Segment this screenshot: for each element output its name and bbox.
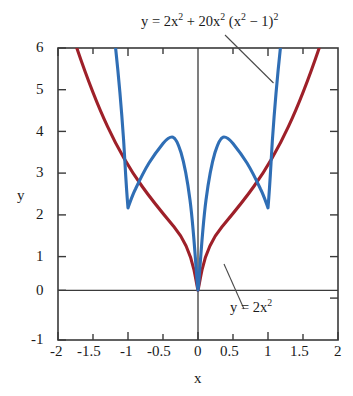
x-tick-label-neg0p5: -0.5 — [147, 344, 171, 359]
y-tick-label-5: 5 — [36, 82, 44, 97]
eq-blue-outer-exp: 2 — [273, 11, 278, 22]
y-tick-label-6: 6 — [36, 40, 44, 55]
eq-blue-inner-exp: 2 — [241, 11, 246, 22]
red-curve-equation-label: y = 2x2 — [230, 300, 272, 316]
chart-figure: 6 5 4 3 2 1 0 -1 -2 -1.5 -1 -0.5 0 0.5 1… — [0, 0, 353, 396]
x-tick-label-2: 2 — [334, 344, 342, 359]
x-tick-label-neg1p5: -1.5 — [77, 344, 101, 359]
x-tick-label-0p5: 0.5 — [220, 344, 239, 359]
x-tick-label-1p5: 1.5 — [290, 344, 309, 359]
x-tick-label-neg1: -1 — [120, 344, 133, 359]
y-tick-label-4: 4 — [36, 124, 44, 139]
y-tick-label-0: 0 — [36, 283, 44, 298]
eq-blue-term1-exp: 2 — [178, 11, 183, 22]
x-tick-label-1: 1 — [264, 344, 272, 359]
eq-blue-minus-one: − 1) — [249, 13, 273, 29]
blue-curve-equation-label: y = 2x2 + 20x2 (x2 − 1)2 — [141, 14, 278, 30]
eq-blue-equals: = — [152, 13, 160, 29]
eq-blue-plus: + — [187, 13, 195, 29]
y-tick-label-2: 2 — [36, 207, 44, 222]
eq-red-term1-exp: 2 — [267, 297, 272, 308]
y-axis-title: y — [17, 188, 25, 203]
x-axis-title: x — [194, 371, 202, 386]
y-tick-label-1: 1 — [36, 249, 44, 264]
eq-blue-term2-exp: 2 — [220, 11, 225, 22]
chart-svg — [0, 0, 353, 396]
y-tick-label-3: 3 — [36, 165, 44, 180]
eq-blue-open-paren: (x — [229, 13, 241, 29]
y-tick-label-neg1: -1 — [31, 332, 44, 347]
eq-red-equals: = — [241, 299, 249, 315]
x-tick-label-0: 0 — [194, 344, 202, 359]
eq-red-lhs: y — [230, 299, 237, 315]
x-tick-label-neg2: -2 — [50, 344, 63, 359]
eq-blue-lhs: y — [141, 13, 148, 29]
eq-blue-term1: 2x — [164, 13, 179, 29]
eq-blue-term2: 20x — [199, 13, 221, 29]
eq-red-term1: 2x — [253, 299, 268, 315]
leader-line-blue-annotation — [225, 35, 274, 83]
